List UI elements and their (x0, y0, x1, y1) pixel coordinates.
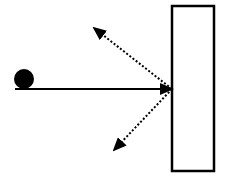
collision-diagram (0, 0, 226, 178)
lower-reflection-arrow (114, 89, 172, 150)
ball (14, 69, 34, 89)
wall-rectangle (172, 6, 214, 171)
diagram-canvas (0, 0, 226, 178)
upper-reflection-arrow (94, 28, 172, 89)
